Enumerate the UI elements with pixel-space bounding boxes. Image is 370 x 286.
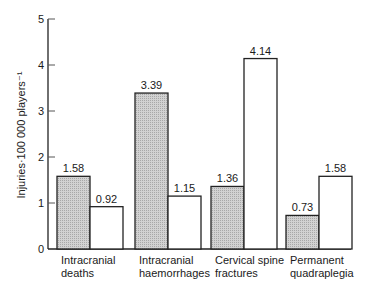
category-label: Cervical spinefractures <box>215 254 284 279</box>
bar-value-label: 0.73 <box>292 201 313 213</box>
category-label-line: quadraplegia <box>290 267 354 279</box>
category-label-line: Intracranial <box>61 254 115 266</box>
category-label-line: Intracranial <box>139 254 193 266</box>
category-label-line: haemorrhages <box>139 267 210 279</box>
y-tick-label: 1 <box>38 197 44 209</box>
category-label: Intracranialhaemorrhages <box>139 254 210 279</box>
bars <box>57 59 352 249</box>
category-label: Permanentquadraplegia <box>290 254 354 279</box>
bar-value-label: 1.36 <box>217 172 238 184</box>
category-label-line: fractures <box>215 267 258 279</box>
bar-value-label: 1.58 <box>63 162 84 174</box>
bar-series-1 <box>135 93 168 249</box>
y-tick-label: 5 <box>38 13 44 25</box>
bar-series-1 <box>211 186 244 249</box>
bar-value-label: 4.14 <box>250 45 271 57</box>
bar-series-2 <box>319 176 352 249</box>
bar-value-label: 3.39 <box>141 79 162 91</box>
category-label-line: deaths <box>61 267 95 279</box>
bar-value-label: 0.92 <box>96 193 117 205</box>
category-label-line: Permanent <box>290 254 344 266</box>
y-axis-title: Injuries·100 000 players⁻¹ <box>15 71 27 198</box>
y-tick-label: 0 <box>38 243 44 255</box>
bar-value-label: 1.15 <box>174 182 195 194</box>
bar-series-1 <box>57 176 90 249</box>
bar-chart: 012345 1.580.92Intracranialdeaths3.391.1… <box>0 0 370 286</box>
y-tick-label: 4 <box>38 59 44 71</box>
bar-series-2 <box>168 196 201 249</box>
y-tick-label: 2 <box>38 151 44 163</box>
bar-series-1 <box>286 215 319 249</box>
bar-series-2 <box>244 59 277 249</box>
y-tick-label: 3 <box>38 105 44 117</box>
bar-value-label: 1.58 <box>325 162 346 174</box>
category-label: Intracranialdeaths <box>61 254 115 279</box>
category-label-line: Cervical spine <box>215 254 284 266</box>
bar-series-2 <box>90 207 123 249</box>
